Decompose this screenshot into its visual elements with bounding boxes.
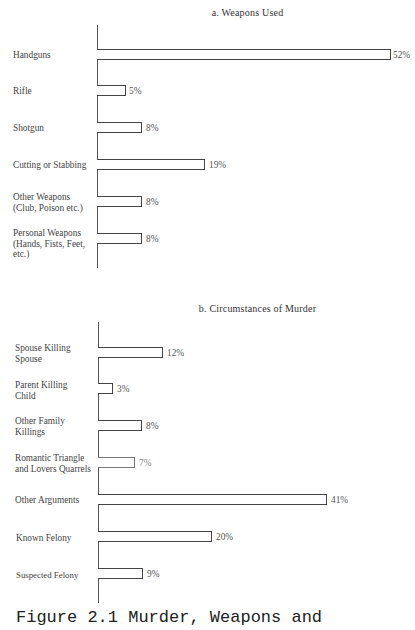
chart-b-title: b. Circumstances of Murder <box>50 303 415 314</box>
category-label: Shotgun <box>13 123 97 134</box>
category-label: Suspected Felony <box>16 570 100 581</box>
category-label: Known Felony <box>16 533 100 544</box>
bar-parent-killing-child <box>98 383 113 394</box>
value-label: 9% <box>147 569 159 579</box>
value-label: 19% <box>209 160 226 170</box>
category-label: Rifle <box>13 86 97 97</box>
value-label: 3% <box>117 384 129 394</box>
category-label: Spouse Killing Spouse <box>15 343 99 364</box>
bar-other-arguments <box>98 494 327 505</box>
category-label: Other Family Killings <box>15 416 99 437</box>
bar-spouse-killing-spouse <box>98 347 163 358</box>
bar-other-weapons <box>97 196 142 207</box>
bar-handguns <box>97 49 391 60</box>
value-label: 41% <box>331 495 348 505</box>
bar-suspected-felony <box>98 568 143 579</box>
value-label: 8% <box>146 234 158 244</box>
bar-cutting-stabbing <box>97 159 205 170</box>
value-label: 20% <box>216 532 233 542</box>
category-label: Other Arguments <box>15 495 99 506</box>
value-label: 5% <box>129 86 141 96</box>
bar-other-family-killings <box>98 420 142 431</box>
value-label: 8% <box>146 197 158 207</box>
category-label: Other Weapons (Club, Poison etc.) <box>13 192 97 213</box>
value-label: 12% <box>167 348 184 358</box>
value-label: 7% <box>139 458 151 468</box>
bar-shotgun <box>97 122 142 133</box>
chart-a-axis <box>97 25 98 268</box>
chart-a-title: a. Weapons Used <box>40 7 415 18</box>
value-label: 52% <box>393 50 410 60</box>
category-label: Handguns <box>13 50 97 61</box>
bar-known-felony <box>98 531 212 542</box>
bar-rifle <box>97 85 126 96</box>
category-label: Parent Killing Child <box>15 380 99 401</box>
category-label: Cutting or Stabbing <box>13 160 103 171</box>
value-label: 8% <box>146 421 158 431</box>
category-label: Personal Weapons (Hands, Fists, Feet, et… <box>13 228 97 260</box>
bar-personal-weapons <box>97 233 142 244</box>
bar-romantic-triangle <box>98 457 135 468</box>
category-label: Romantic Triangle and Lovers Quarrels <box>15 453 105 474</box>
value-label: 8% <box>146 123 158 133</box>
figure-caption: Figure 2.1 Murder, Weapons and <box>16 608 322 627</box>
